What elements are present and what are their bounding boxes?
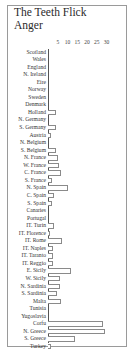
x-tick-label: 10 xyxy=(65,39,71,45)
bar xyxy=(48,163,59,168)
category-label: IT. Naples xyxy=(23,245,46,253)
category-label: N. France xyxy=(24,154,46,162)
bar-row: N. Germany xyxy=(0,116,130,124)
chart-title: The Teeth Flick Anger xyxy=(14,6,114,32)
bar xyxy=(48,223,54,228)
bar-row: N. France xyxy=(0,154,130,162)
bar-row: Holland xyxy=(0,109,130,117)
category-label: Eire xyxy=(37,79,46,87)
bar xyxy=(48,253,53,258)
bar-row: IT. Florence xyxy=(0,230,130,238)
category-label: C. France xyxy=(24,169,46,177)
bar-row: Sweden xyxy=(0,94,130,102)
bar-row: IT. Reggio xyxy=(0,260,130,268)
bar xyxy=(48,276,60,281)
bar xyxy=(48,125,56,130)
bar-row: Corfu xyxy=(0,320,130,328)
bar xyxy=(48,268,71,273)
bar xyxy=(48,155,58,160)
bar-row: IT. Taranto xyxy=(0,252,130,260)
bar-row: IT. Turin xyxy=(0,222,130,230)
category-label: S. France xyxy=(25,177,46,185)
category-label: C. Spain xyxy=(27,192,46,200)
x-tick-label: 30 xyxy=(104,39,110,45)
category-label: E. Sicily xyxy=(27,267,46,275)
category-label: Scotland xyxy=(26,49,46,57)
category-label: IT. Reggio xyxy=(22,260,46,268)
category-label: Corfu xyxy=(33,320,46,328)
x-tick-label: 15 xyxy=(75,39,81,45)
category-label: S. Germany xyxy=(19,124,46,132)
category-label: Norway xyxy=(28,86,46,94)
bar xyxy=(48,336,75,341)
bar xyxy=(48,201,52,206)
category-label: W. Sicily xyxy=(25,275,46,283)
bar-row: Wales xyxy=(0,56,130,64)
bar xyxy=(48,246,53,251)
bar xyxy=(48,321,103,326)
bar-row: England xyxy=(0,64,130,72)
x-tick-label: 20 xyxy=(84,39,90,45)
category-label: Wales xyxy=(32,56,46,64)
bar-row: N. Greece xyxy=(0,328,130,336)
bar-row: Austria xyxy=(0,132,130,140)
bar xyxy=(48,193,54,198)
bar-row: Portugal xyxy=(0,215,130,223)
bar xyxy=(48,261,53,266)
category-label: Portugal xyxy=(27,215,46,223)
category-label: IT. Taranto xyxy=(21,252,46,260)
bar-row: N. Sardinia xyxy=(0,283,130,291)
bar-row: IT. Rome xyxy=(0,237,130,245)
category-label: N. Germany xyxy=(18,116,46,124)
bar-row: N. Ireland xyxy=(0,71,130,79)
bar xyxy=(48,185,68,190)
category-label: N. Ireland xyxy=(23,71,46,79)
bar xyxy=(48,291,57,296)
bar-row: W. Sicily xyxy=(0,275,130,283)
category-label: N. Spain xyxy=(26,184,46,192)
category-label: S. Spain xyxy=(27,200,46,208)
bar-row: E. Sicily xyxy=(0,267,130,275)
bar xyxy=(48,284,60,289)
bar-row: S. Sardinia xyxy=(0,290,130,298)
bar xyxy=(48,148,56,153)
category-label: Holland xyxy=(28,109,46,117)
bar xyxy=(48,231,50,236)
bar-row: Turkey xyxy=(0,343,130,351)
bar-row: C. Spain xyxy=(0,192,130,200)
bar xyxy=(48,178,52,183)
bar-row: Canaries xyxy=(0,207,130,215)
bar-row: W. France xyxy=(0,162,130,170)
category-label: England xyxy=(27,64,46,72)
bar-row: S. Greece xyxy=(0,335,130,343)
category-label: N. Sardinia xyxy=(21,283,46,291)
category-label: N. Belgium xyxy=(20,139,46,147)
bar-row: S. Germany xyxy=(0,124,130,132)
category-label: Canaries xyxy=(26,207,46,215)
category-label: Tunisia xyxy=(29,305,46,313)
category-label: S. Belgium xyxy=(21,147,46,155)
bar-row: S. Belgium xyxy=(0,147,130,155)
category-label: Sweden xyxy=(28,94,46,102)
bar xyxy=(48,299,61,304)
bar xyxy=(48,133,51,138)
bar-row: C. France xyxy=(0,169,130,177)
category-label: IT. Florence xyxy=(19,230,46,238)
bar xyxy=(48,238,62,243)
category-label: IT. Rome xyxy=(25,237,46,245)
bar-row: Norway xyxy=(0,86,130,94)
bar-row: Scotland xyxy=(0,49,130,57)
category-label: N. Greece xyxy=(23,328,46,336)
bar xyxy=(48,329,105,334)
bar xyxy=(48,344,51,349)
category-label: IT. Turin xyxy=(26,222,46,230)
bar-row: Denmark xyxy=(0,101,130,109)
category-label: S. Greece xyxy=(24,335,46,343)
category-label: S. Sardinia xyxy=(21,290,46,298)
bar-row: Tunisia xyxy=(0,305,130,313)
bar-row: Eire xyxy=(0,79,130,87)
bar-row: N. Belgium xyxy=(0,139,130,147)
category-label: Yugoslavia xyxy=(21,313,46,321)
x-axis-ticks: 51015202530 xyxy=(0,39,130,47)
x-tick-label: 5 xyxy=(56,39,59,45)
